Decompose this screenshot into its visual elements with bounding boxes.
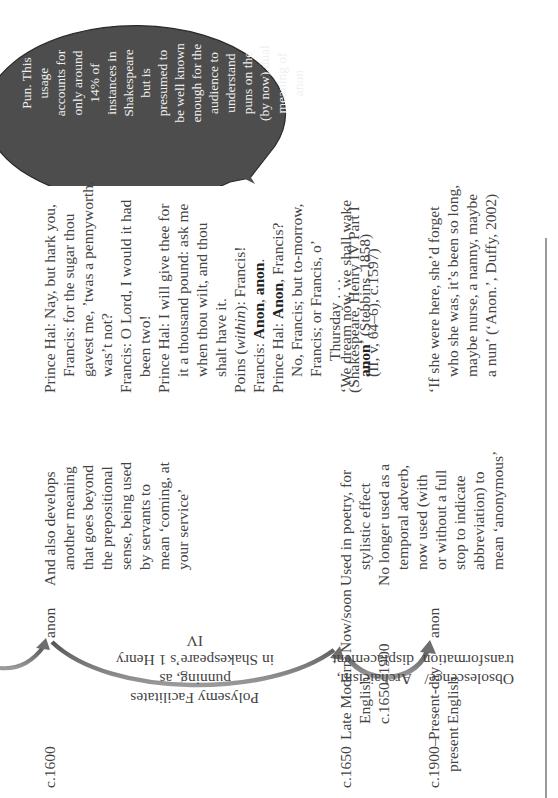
rotated-book-page: Pun. Thisusageaccounts for only around14… bbox=[0, 0, 558, 798]
label-obsolescence: Obsolescence/ transformation bbox=[424, 640, 514, 700]
label-archaicism: Archaicism, displacement bbox=[334, 640, 414, 700]
table-bottom-rule bbox=[545, 238, 547, 798]
label-polysemy: Polysemy Facilitates punning, as in Shak… bbox=[110, 640, 280, 700]
arrow-into-anon-1600 bbox=[0, 646, 44, 668]
